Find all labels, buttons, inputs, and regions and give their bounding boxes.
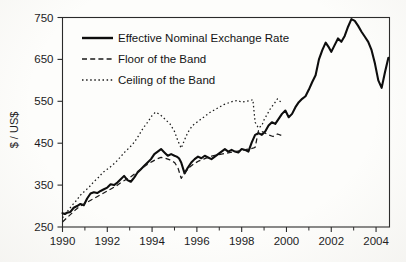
y-tick-label: 250 [34, 221, 53, 233]
x-tick-label: 1998 [229, 235, 255, 247]
x-tick-label: 2004 [363, 235, 389, 247]
legend-item-label: Ceiling of the Band [118, 74, 215, 86]
line-chart: $ / US$ 250350450550650750 1990199219941… [0, 0, 406, 262]
legend-item-label: Floor of the Band [118, 53, 206, 65]
legend-item-label: Effective Nominal Exchange Rate [118, 32, 289, 44]
y-tick-label: 650 [34, 53, 53, 65]
y-axis-title: $ / US$ [8, 112, 20, 149]
y-tick-label: 350 [34, 179, 53, 191]
x-tick-label: 1996 [184, 235, 210, 247]
x-tick-label: 2002 [318, 235, 344, 247]
y-axis-title-text: $ / US$ [8, 112, 20, 149]
chart-figure: $ / US$ 250350450550650750 1990199219941… [0, 0, 406, 262]
y-tick-label: 450 [34, 137, 53, 149]
y-tick-label: 750 [34, 12, 53, 24]
x-tick-label: 1994 [139, 235, 165, 247]
x-tick-label: 1990 [50, 235, 76, 247]
x-tick-label: 2000 [274, 235, 300, 247]
x-tick-label: 1992 [94, 235, 120, 247]
y-tick-label: 550 [34, 95, 53, 107]
